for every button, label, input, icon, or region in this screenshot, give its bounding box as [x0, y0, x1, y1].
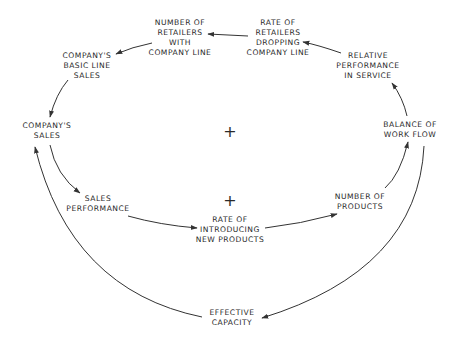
node-line: NEW PRODUCTS — [196, 235, 264, 245]
node-line: CAPACITY — [209, 318, 254, 328]
node-line: PERFORMANCE — [336, 61, 399, 71]
node-line: BASIC LINE — [63, 61, 112, 71]
node-number-of-products: NUMBER OF PRODUCTS — [335, 192, 385, 212]
node-rate-retailers-dropping: RATE OF RETAILERS DROPPING COMPANY LINE — [247, 18, 310, 58]
node-line: NUMBER OF — [149, 18, 212, 28]
node-line: INTRODUCING — [196, 225, 264, 235]
arrow-basic-sales-to-company-sales — [50, 80, 68, 117]
node-line: SALES — [23, 131, 72, 141]
node-line: PRODUCTS — [335, 202, 385, 212]
arrow-number-to-balance — [385, 142, 408, 188]
arrow-capacity-to-company-sales — [35, 147, 202, 317]
node-line: RATE OF — [247, 18, 310, 28]
node-line: WITH — [149, 38, 212, 48]
node-line: RELATIVE — [336, 51, 399, 61]
node-company-sales: COMPANY'S SALES — [23, 121, 72, 141]
node-line: BALANCE OF — [383, 120, 437, 130]
node-line: RETAILERS — [149, 28, 212, 38]
arrow-balance-to-relative — [392, 83, 407, 116]
node-line: COMPANY'S — [23, 121, 72, 131]
node-line: COMPANY'S — [63, 51, 112, 61]
loop-polarity-plus-inner: + — [223, 193, 236, 209]
node-line: RATE OF — [196, 215, 264, 225]
node-relative-performance-in-service: RELATIVE PERFORMANCE IN SERVICE — [336, 51, 399, 81]
node-balance-of-work-flow: BALANCE OF WORK FLOW — [383, 120, 437, 140]
node-line: SALES — [63, 71, 112, 81]
node-rate-introducing-new-products: RATE OF INTRODUCING NEW PRODUCTS — [196, 215, 264, 245]
node-effective-capacity: EFFECTIVE CAPACITY — [209, 308, 254, 328]
arrow-dropping-to-retailers — [208, 34, 248, 36]
arrow-company-sales-to-performance — [50, 145, 80, 193]
node-line: PERFORMANCE — [66, 204, 129, 214]
arrow-retailers-to-basic-sales — [116, 43, 152, 54]
node-line: EFFECTIVE — [209, 308, 254, 318]
node-line: COMPANY LINE — [149, 48, 212, 58]
arrow-new-products-to-number — [265, 214, 337, 228]
arrow-performance-to-new-products — [128, 216, 197, 228]
node-line: IN SERVICE — [336, 71, 399, 81]
node-sales-performance: SALES PERFORMANCE — [66, 194, 129, 214]
loop-polarity-plus-outer: + — [223, 124, 236, 140]
node-line: RETAILERS — [247, 28, 310, 38]
causal-loop-diagram: NUMBER OF RETAILERS WITH COMPANY LINE RA… — [0, 0, 457, 348]
arrow-balance-to-capacity — [262, 146, 424, 318]
node-basic-line-sales: COMPANY'S BASIC LINE SALES — [63, 51, 112, 81]
node-line: WORK FLOW — [383, 130, 437, 140]
node-line: DROPPING — [247, 38, 310, 48]
node-line: COMPANY LINE — [247, 48, 310, 58]
node-line: SALES — [66, 194, 129, 204]
node-line: NUMBER OF — [335, 192, 385, 202]
node-retailers-with-company-line: NUMBER OF RETAILERS WITH COMPANY LINE — [149, 18, 212, 58]
